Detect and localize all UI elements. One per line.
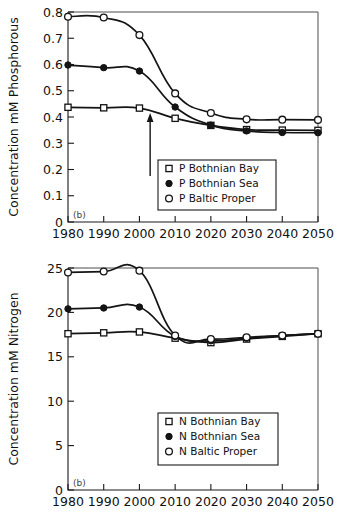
x-tick-label: 2030 — [231, 226, 263, 241]
y-tick-label: 0.3 — [43, 136, 63, 151]
y-tick-label: 0.5 — [43, 83, 63, 98]
legend-item[interactable]: N Baltic Proper — [166, 445, 258, 457]
y-tick-label: 0.2 — [43, 162, 63, 177]
annotation-arrow-up — [147, 113, 154, 176]
x-axis-ticks: 19801990200020102020203020402050 — [52, 484, 334, 509]
y-tick-label: 0.8 — [43, 5, 63, 20]
x-tick-label: 2010 — [159, 494, 191, 509]
y-tick-label: 0.4 — [43, 110, 63, 125]
y-tick-label: 10 — [47, 394, 63, 409]
x-tick-label: 1990 — [88, 226, 120, 241]
x-axis-ticks: 19801990200020102020203020402050 — [52, 216, 334, 241]
legend-item[interactable]: P Bothnian Bay — [166, 162, 259, 174]
legend-label: P Baltic Proper — [179, 192, 256, 204]
y-tick-label: 15 — [47, 349, 63, 364]
series-1 — [65, 62, 321, 136]
x-tick-label: 2050 — [302, 494, 334, 509]
y-axis-ticks: 0510152025 — [47, 261, 74, 498]
panel-tag: (b) — [73, 478, 86, 488]
legend-label: N Bothnian Sea — [179, 430, 260, 442]
legend-item[interactable]: N Bothnian Sea — [166, 430, 260, 442]
legend-item[interactable]: P Baltic Proper — [166, 192, 257, 204]
legend-label: P Bothnian Sea — [179, 177, 259, 189]
y-axis-title: Concentration mM Nitrogen — [6, 292, 21, 465]
y-tick-label: 0.6 — [43, 57, 63, 72]
legend-label: P Bothnian Bay — [179, 162, 259, 174]
x-tick-label: 1990 — [88, 494, 120, 509]
x-tick-label: 2050 — [302, 226, 334, 241]
x-tick-label: 2000 — [124, 226, 156, 241]
x-tick-label: 2040 — [266, 226, 298, 241]
x-tick-label: 2020 — [195, 494, 227, 509]
x-tick-label: 2020 — [195, 226, 227, 241]
x-tick-label: 2000 — [124, 494, 156, 509]
y-tick-label: 0.1 — [43, 188, 63, 203]
x-tick-label: 2010 — [159, 226, 191, 241]
legend-label: N Baltic Proper — [179, 445, 258, 457]
legend-item[interactable]: P Bothnian Sea — [166, 177, 259, 189]
x-tick-label: 1980 — [52, 226, 84, 241]
legend: N Bothnian BayN Bothnian SeaN Baltic Pro… — [158, 413, 278, 465]
x-tick-label: 2040 — [266, 494, 298, 509]
chart-phosphorous: 00.10.20.30.40.50.60.70.8198019902000201… — [0, 0, 338, 258]
y-axis-ticks: 00.10.20.30.40.50.60.70.8 — [43, 5, 74, 230]
y-tick-label: 5 — [55, 438, 63, 453]
legend: P Bothnian BayP Bothnian SeaP Baltic Pro… — [158, 160, 276, 210]
chart-nitrogen: 0510152025198019902000201020202030204020… — [0, 258, 338, 527]
x-tick-label: 1980 — [52, 494, 84, 509]
panel-tag: (b) — [73, 210, 86, 220]
y-axis-title: Concentration mM Phosphorous — [6, 17, 21, 216]
legend-item[interactable]: N Bothnian Bay — [166, 415, 261, 427]
y-tick-label: 25 — [47, 261, 63, 276]
y-tick-label: 20 — [47, 305, 63, 320]
chart-panel-phosphorous: 00.10.20.30.40.50.60.70.8198019902000201… — [0, 0, 338, 258]
legend-label: N Bothnian Bay — [179, 415, 260, 427]
y-tick-label: 0.7 — [43, 31, 63, 46]
figure-root: 00.10.20.30.40.50.60.70.8198019902000201… — [0, 0, 338, 527]
chart-panel-nitrogen: 0510152025198019902000201020202030204020… — [0, 258, 338, 527]
x-tick-label: 2030 — [231, 494, 263, 509]
